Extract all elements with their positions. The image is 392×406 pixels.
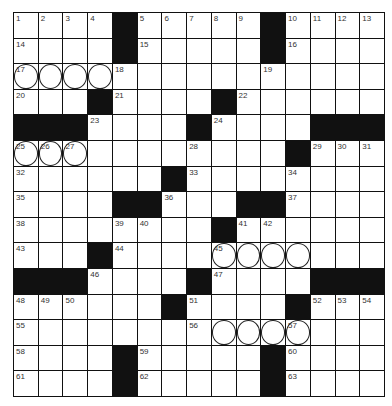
grid-cell[interactable] <box>261 141 285 166</box>
grid-cell[interactable] <box>237 243 261 268</box>
grid-cell[interactable] <box>39 320 63 345</box>
grid-cell[interactable] <box>311 346 335 371</box>
grid-cell[interactable] <box>261 269 285 294</box>
grid-cell[interactable]: 59 <box>138 346 162 371</box>
grid-cell[interactable]: 19 <box>261 64 285 89</box>
grid-cell[interactable]: 36 <box>162 192 186 217</box>
grid-cell[interactable] <box>138 64 162 89</box>
grid-cell[interactable] <box>286 218 310 243</box>
grid-cell[interactable]: 44 <box>113 243 137 268</box>
grid-cell[interactable] <box>63 90 87 115</box>
grid-cell[interactable] <box>212 295 236 320</box>
grid-cell[interactable] <box>113 320 137 345</box>
grid-cell[interactable] <box>286 269 310 294</box>
grid-cell[interactable] <box>212 192 236 217</box>
grid-cell[interactable]: 25 <box>14 141 38 166</box>
grid-cell[interactable]: 63 <box>286 371 310 396</box>
grid-cell[interactable] <box>138 320 162 345</box>
grid-cell[interactable] <box>39 192 63 217</box>
grid-cell[interactable] <box>39 346 63 371</box>
grid-cell[interactable] <box>162 39 186 64</box>
grid-cell[interactable]: 27 <box>63 141 87 166</box>
grid-cell[interactable]: 33 <box>187 167 211 192</box>
grid-cell[interactable]: 23 <box>88 115 112 140</box>
grid-cell[interactable]: 9 <box>237 13 261 38</box>
grid-cell[interactable]: 41 <box>237 218 261 243</box>
grid-cell[interactable]: 8 <box>212 13 236 38</box>
grid-cell[interactable] <box>162 346 186 371</box>
grid-cell[interactable] <box>138 243 162 268</box>
grid-cell[interactable]: 3 <box>63 13 87 38</box>
grid-cell[interactable] <box>88 39 112 64</box>
grid-cell[interactable] <box>39 371 63 396</box>
grid-cell[interactable]: 43 <box>14 243 38 268</box>
grid-cell[interactable] <box>311 167 335 192</box>
grid-cell[interactable] <box>311 192 335 217</box>
grid-cell[interactable] <box>261 295 285 320</box>
grid-cell[interactable] <box>360 167 384 192</box>
grid-cell[interactable]: 15 <box>138 39 162 64</box>
grid-cell[interactable]: 55 <box>14 320 38 345</box>
grid-cell[interactable] <box>88 371 112 396</box>
grid-cell[interactable]: 22 <box>237 90 261 115</box>
grid-cell[interactable] <box>237 295 261 320</box>
grid-cell[interactable] <box>336 243 360 268</box>
grid-cell[interactable] <box>39 90 63 115</box>
grid-cell[interactable]: 32 <box>14 167 38 192</box>
grid-cell[interactable] <box>138 115 162 140</box>
grid-cell[interactable] <box>336 346 360 371</box>
grid-cell[interactable] <box>237 115 261 140</box>
grid-cell[interactable] <box>113 115 137 140</box>
grid-cell[interactable] <box>311 320 335 345</box>
grid-cell[interactable] <box>336 167 360 192</box>
grid-cell[interactable] <box>63 218 87 243</box>
grid-cell[interactable]: 50 <box>63 295 87 320</box>
grid-cell[interactable]: 34 <box>286 167 310 192</box>
grid-cell[interactable] <box>63 64 87 89</box>
grid-cell[interactable] <box>187 371 211 396</box>
grid-cell[interactable] <box>88 320 112 345</box>
grid-cell[interactable] <box>261 320 285 345</box>
grid-cell[interactable] <box>311 371 335 396</box>
grid-cell[interactable] <box>360 218 384 243</box>
grid-cell[interactable]: 48 <box>14 295 38 320</box>
grid-cell[interactable] <box>187 218 211 243</box>
grid-cell[interactable] <box>212 64 236 89</box>
grid-cell[interactable]: 53 <box>336 295 360 320</box>
grid-cell[interactable]: 39 <box>113 218 137 243</box>
grid-cell[interactable] <box>113 295 137 320</box>
grid-cell[interactable] <box>360 371 384 396</box>
grid-cell[interactable] <box>286 115 310 140</box>
grid-cell[interactable] <box>286 64 310 89</box>
grid-cell[interactable]: 35 <box>14 192 38 217</box>
grid-cell[interactable] <box>311 218 335 243</box>
grid-cell[interactable]: 4 <box>88 13 112 38</box>
grid-cell[interactable] <box>237 39 261 64</box>
grid-cell[interactable] <box>212 39 236 64</box>
grid-cell[interactable] <box>237 167 261 192</box>
grid-cell[interactable]: 14 <box>14 39 38 64</box>
grid-cell[interactable]: 60 <box>286 346 310 371</box>
grid-cell[interactable] <box>138 167 162 192</box>
grid-cell[interactable]: 24 <box>212 115 236 140</box>
grid-cell[interactable] <box>113 269 137 294</box>
grid-cell[interactable]: 37 <box>286 192 310 217</box>
grid-cell[interactable] <box>88 64 112 89</box>
grid-cell[interactable]: 1 <box>14 13 38 38</box>
grid-cell[interactable] <box>360 39 384 64</box>
grid-cell[interactable] <box>360 90 384 115</box>
grid-cell[interactable] <box>162 64 186 89</box>
grid-cell[interactable] <box>187 64 211 89</box>
grid-cell[interactable] <box>360 320 384 345</box>
grid-cell[interactable] <box>88 141 112 166</box>
grid-cell[interactable]: 17 <box>14 64 38 89</box>
grid-cell[interactable]: 51 <box>187 295 211 320</box>
grid-cell[interactable] <box>88 218 112 243</box>
grid-cell[interactable] <box>138 295 162 320</box>
grid-cell[interactable]: 54 <box>360 295 384 320</box>
grid-cell[interactable]: 29 <box>311 141 335 166</box>
grid-cell[interactable]: 20 <box>14 90 38 115</box>
grid-cell[interactable] <box>88 346 112 371</box>
grid-cell[interactable]: 12 <box>336 13 360 38</box>
grid-cell[interactable]: 2 <box>39 13 63 38</box>
